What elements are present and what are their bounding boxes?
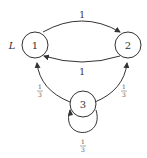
edge-3-to-1-label: 1 3 — [37, 83, 43, 98]
edge-1-to-2 — [43, 21, 120, 32]
side-label-L: L — [8, 40, 16, 51]
edge-3-to-1 — [37, 63, 70, 102]
svg-text:3: 3 — [81, 146, 85, 153]
node-2: 2 — [115, 32, 141, 58]
svg-text:3: 3 — [38, 91, 42, 98]
edge-2-to-1 — [44, 56, 120, 62]
edge-2-to-1-label: 1 — [79, 67, 85, 77]
markov-chain-diagram: 1 1 1 3 1 3 1 3 1 2 3 L — [0, 0, 147, 158]
node-1: 1 — [22, 32, 48, 58]
svg-text:2: 2 — [125, 40, 131, 51]
svg-text:1: 1 — [32, 40, 38, 51]
edge-3-to-3-label: 1 3 — [80, 138, 86, 153]
node-3: 3 — [70, 91, 96, 117]
edge-3-to-2-label: 1 3 — [121, 83, 127, 98]
edge-1-to-2-label: 1 — [79, 10, 85, 20]
svg-text:1: 1 — [81, 138, 85, 145]
svg-text:3: 3 — [122, 91, 126, 98]
svg-text:1: 1 — [38, 83, 42, 90]
svg-text:1: 1 — [122, 83, 126, 90]
svg-text:3: 3 — [80, 99, 86, 110]
